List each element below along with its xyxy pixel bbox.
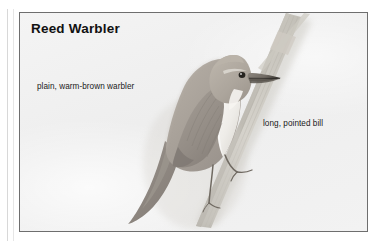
- illustration-plate: Reed Warbler plain, warm-brown warbler l…: [19, 12, 368, 232]
- warbler-eye-highlight: [240, 73, 242, 75]
- page-title: Reed Warbler: [31, 21, 120, 36]
- warbler-body-group: [128, 55, 281, 229]
- page-binding-rule-secondary: [13, 9, 14, 241]
- page-binding-rule: [7, 9, 8, 241]
- annotation-plumage: plain, warm-brown warbler: [37, 82, 134, 91]
- warbler-eye: [239, 72, 246, 78]
- page-canvas: Reed Warbler plain, warm-brown warbler l…: [0, 0, 383, 249]
- annotation-bill: long, pointed bill: [263, 119, 323, 128]
